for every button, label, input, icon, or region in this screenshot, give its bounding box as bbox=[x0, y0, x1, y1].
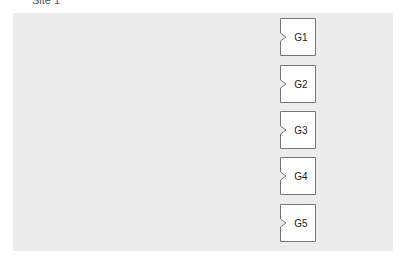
diagram-title: Site 1 bbox=[32, 0, 60, 6]
site-panel bbox=[13, 13, 393, 251]
gate-g4[interactable]: G4 bbox=[280, 157, 316, 195]
gate-label: G5 bbox=[280, 204, 316, 242]
gate-g5[interactable]: G5 bbox=[280, 204, 316, 242]
gate-g3[interactable]: G3 bbox=[280, 111, 316, 149]
gate-label: G3 bbox=[280, 111, 316, 149]
gate-g2[interactable]: G2 bbox=[280, 65, 316, 103]
gate-label: G1 bbox=[280, 18, 316, 56]
gate-g1[interactable]: G1 bbox=[280, 18, 316, 56]
gate-label: G4 bbox=[280, 157, 316, 195]
gate-label: G2 bbox=[280, 65, 316, 103]
